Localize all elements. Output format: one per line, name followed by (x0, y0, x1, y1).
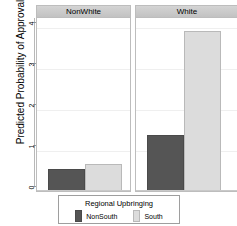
panel-strip-label: White (136, 6, 237, 18)
legend-item-south[interactable]: South (133, 210, 162, 222)
bar-white-south[interactable] (184, 31, 221, 191)
panel-strip-label: NonWhite (37, 6, 130, 18)
panel-nonwhite: NonWhite (36, 5, 131, 192)
panel-white: White (135, 5, 237, 192)
y-tick-label: 4 (29, 22, 36, 26)
gridline (37, 151, 130, 152)
y-tick-label: 2 (29, 104, 36, 108)
y-tick-label: 1 (29, 145, 36, 149)
y-axis-title: Predicted Probability of Approval (15, 0, 29, 157)
plot-area (37, 19, 130, 191)
legend-items: NonSouth South (59, 210, 179, 222)
legend-swatch-icon (75, 210, 82, 222)
legend-item-label: NonSouth (86, 213, 117, 220)
gridline (37, 69, 130, 70)
bar-white-nonsouth[interactable] (147, 135, 184, 191)
panel-baseline (37, 190, 130, 191)
bar-nonwhite-south[interactable] (85, 164, 122, 191)
y-tick-label: 3 (29, 63, 36, 67)
legend: Regional Upbringing NonSouth South (58, 195, 180, 224)
panel-baseline (136, 190, 237, 191)
gridline (37, 28, 130, 29)
legend-swatch-icon (133, 210, 140, 222)
legend-title: Regional Upbringing (59, 198, 179, 209)
legend-item-label: South (144, 213, 162, 220)
y-tick-label: 0 (29, 186, 36, 190)
plot-area (136, 19, 237, 191)
gridline (136, 28, 237, 29)
chart-container: Predicted Probability of Approval 4 3 2 … (0, 0, 237, 226)
gridline (37, 110, 130, 111)
legend-item-nonsouth[interactable]: NonSouth (75, 210, 117, 222)
bar-nonwhite-nonsouth[interactable] (48, 169, 85, 191)
